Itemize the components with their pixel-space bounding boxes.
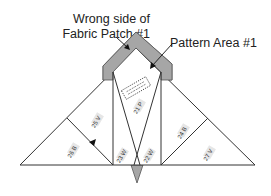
foundation-piecing-diagram: 21 P 22 W 23 W 24 B 25 V 26 B 27 V xyxy=(0,0,271,196)
fabric-patch-spike xyxy=(131,165,143,183)
